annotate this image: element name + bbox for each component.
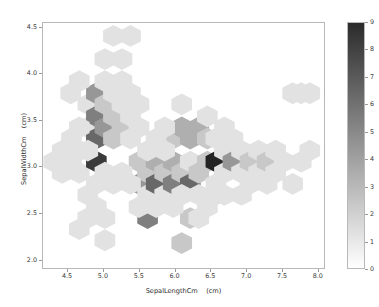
colorbar-tick-label: 3 (370, 183, 374, 191)
colorbar-gradient (347, 22, 365, 269)
colorbar-tick-mark (365, 104, 368, 105)
x-axis-label: SepalLengthCm (cm) (42, 287, 325, 295)
colorbar-tick-label: 9 (370, 18, 374, 26)
y-tick-label: 3.0 (27, 162, 37, 170)
colorbar-tick-mark (365, 132, 368, 133)
colorbar-tick-label: 7 (370, 73, 374, 81)
y-tick-label: 2.5 (27, 209, 37, 217)
colorbar-tick-label: 1 (370, 238, 374, 246)
x-tick-label: 8.0 (313, 272, 323, 280)
y-tick-label: 4.0 (27, 69, 37, 77)
colorbar-tick-mark (365, 49, 368, 50)
y-tick-label: 3.5 (27, 116, 37, 124)
colorbar-tick-label: 2 (370, 210, 374, 218)
hexbin-figure: 2.02.53.03.54.04.5 4.55.05.56.06.57.07.5… (0, 0, 379, 307)
y-tick-mark (39, 213, 42, 214)
colorbar-tick-label: 0 (370, 265, 374, 273)
x-tick-label: 6.0 (169, 272, 179, 280)
colorbar-tick-mark (365, 187, 368, 188)
colorbar-tick-mark (365, 159, 368, 160)
y-axis-label: SepalWidthCm (cm) (20, 79, 28, 219)
hexbin-cell (112, 48, 133, 70)
colorbar-tick-mark (365, 77, 368, 78)
colorbar-tick-mark (365, 22, 368, 23)
y-tick-label: 4.5 (27, 23, 37, 31)
hexbin-cell (120, 25, 141, 47)
x-tick-label: 6.5 (205, 272, 215, 280)
hexbin-svg (43, 23, 324, 268)
colorbar-tick-mark (365, 214, 368, 215)
x-tick-label: 5.0 (98, 272, 108, 280)
x-tick-label: 7.5 (277, 272, 287, 280)
x-tick-label: 4.5 (62, 272, 72, 280)
x-tick-label: 7.0 (241, 272, 251, 280)
plot-axes (42, 22, 325, 269)
x-tick-label: 5.5 (134, 272, 144, 280)
colorbar-tick-label: 6 (370, 100, 374, 108)
y-tick-mark (39, 27, 42, 28)
y-tick-label: 2.0 (27, 256, 37, 264)
y-tick-mark (39, 120, 42, 121)
hexbin-cell (171, 93, 192, 115)
hexbin-layer (43, 23, 324, 268)
colorbar-tick-label: 5 (370, 128, 374, 136)
colorbar: 0123456789 (347, 22, 365, 269)
colorbar-tick-mark (365, 269, 368, 270)
y-tick-mark (39, 260, 42, 261)
colorbar-tick-mark (365, 242, 368, 243)
y-tick-mark (39, 73, 42, 74)
hexbin-cell (171, 232, 192, 254)
hexbin-cell (95, 229, 116, 251)
colorbar-tick-label: 8 (370, 45, 374, 53)
colorbar-tick-label: 4 (370, 155, 374, 163)
y-tick-mark (39, 166, 42, 167)
